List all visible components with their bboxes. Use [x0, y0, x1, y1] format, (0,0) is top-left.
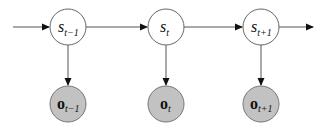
hmm-diagram: st−1 st st+1 ot−1 ot ot+1 — [0, 0, 329, 132]
observation-label: o — [57, 95, 65, 112]
observation-label: o — [160, 95, 168, 112]
observation-label: o — [250, 95, 258, 112]
observation-node-t-plus-1: ot+1 — [243, 86, 279, 122]
observation-node-t: ot — [148, 86, 184, 122]
state-subscript: t−1 — [64, 27, 79, 38]
observation-subscript: t+1 — [258, 103, 273, 114]
observation-subscript: t−1 — [65, 103, 80, 114]
state-node-t-minus-1: st−1 — [50, 9, 86, 45]
state-subscript: t+1 — [257, 27, 272, 38]
state-node-t-plus-1: st+1 — [243, 9, 279, 45]
observation-subscript: t — [168, 103, 171, 114]
state-node-t: st — [148, 9, 184, 45]
observation-node-t-minus-1: ot−1 — [50, 86, 86, 122]
state-subscript: t — [166, 27, 169, 38]
